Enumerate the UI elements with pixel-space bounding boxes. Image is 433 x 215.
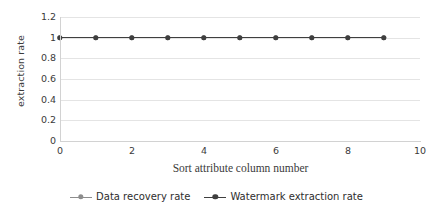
series-line-segment bbox=[348, 37, 384, 39]
gridline-y bbox=[60, 58, 420, 59]
data-point-marker bbox=[93, 35, 98, 40]
chart-legend: Data recovery rateWatermark extraction r… bbox=[0, 188, 433, 206]
series-line-segment bbox=[60, 37, 96, 39]
y-axis-tick-label: 1 bbox=[26, 33, 56, 43]
data-point-marker bbox=[237, 35, 242, 40]
y-axis-tick-label: 0.4 bbox=[26, 95, 56, 105]
x-axis-title: Sort attribute column number bbox=[60, 162, 421, 174]
x-axis-tick-label: 4 bbox=[187, 144, 221, 157]
y-axis-tick-label: 0.2 bbox=[26, 115, 56, 125]
gridline-y bbox=[60, 79, 420, 80]
data-point-marker bbox=[201, 35, 206, 40]
legend-entry[interactable]: Data recovery rate bbox=[70, 191, 190, 203]
x-axis-line bbox=[60, 141, 421, 142]
legend-marker-icon bbox=[204, 192, 226, 202]
y-axis-tick-label: 1.2 bbox=[26, 12, 56, 22]
legend-label: Data recovery rate bbox=[96, 191, 190, 203]
series-line-segment bbox=[312, 37, 348, 39]
series-line-segment bbox=[96, 37, 132, 39]
x-axis-tick-label: 2 bbox=[115, 144, 149, 157]
chart-container: extraction rate 00.20.40.60.811.2 024681… bbox=[0, 0, 433, 215]
x-axis-tick-label: 0 bbox=[43, 144, 77, 157]
y-axis-line bbox=[60, 17, 61, 142]
y-axis-tick-label: 0.6 bbox=[26, 74, 56, 84]
legend-label: Watermark extraction rate bbox=[230, 191, 363, 203]
data-point-marker bbox=[345, 35, 350, 40]
plot-area bbox=[60, 17, 420, 141]
series-line-segment bbox=[168, 37, 204, 39]
gridline-y bbox=[60, 120, 420, 121]
series-line-segment bbox=[276, 37, 312, 39]
x-axis-tick-labels: 0246810 bbox=[60, 144, 421, 158]
series-line-segment bbox=[132, 37, 168, 39]
data-point-marker bbox=[381, 35, 386, 40]
x-axis-tick-label: 10 bbox=[403, 144, 433, 157]
gridline-y bbox=[60, 17, 420, 18]
x-axis-tick-label: 8 bbox=[331, 144, 365, 157]
data-point-marker bbox=[309, 35, 314, 40]
data-point-marker bbox=[273, 35, 278, 40]
series-line-segment bbox=[204, 37, 240, 39]
data-point-marker bbox=[165, 35, 170, 40]
y-axis-tick-label: 0.8 bbox=[26, 53, 56, 63]
gridline-y bbox=[60, 100, 420, 101]
data-point-marker bbox=[129, 35, 134, 40]
x-axis-tick-label: 6 bbox=[259, 144, 293, 157]
series-line-segment bbox=[240, 37, 276, 39]
legend-marker-icon bbox=[70, 192, 92, 202]
legend-entry[interactable]: Watermark extraction rate bbox=[204, 191, 363, 203]
y-axis-tick-labels: 00.20.40.60.811.2 bbox=[26, 12, 56, 146]
